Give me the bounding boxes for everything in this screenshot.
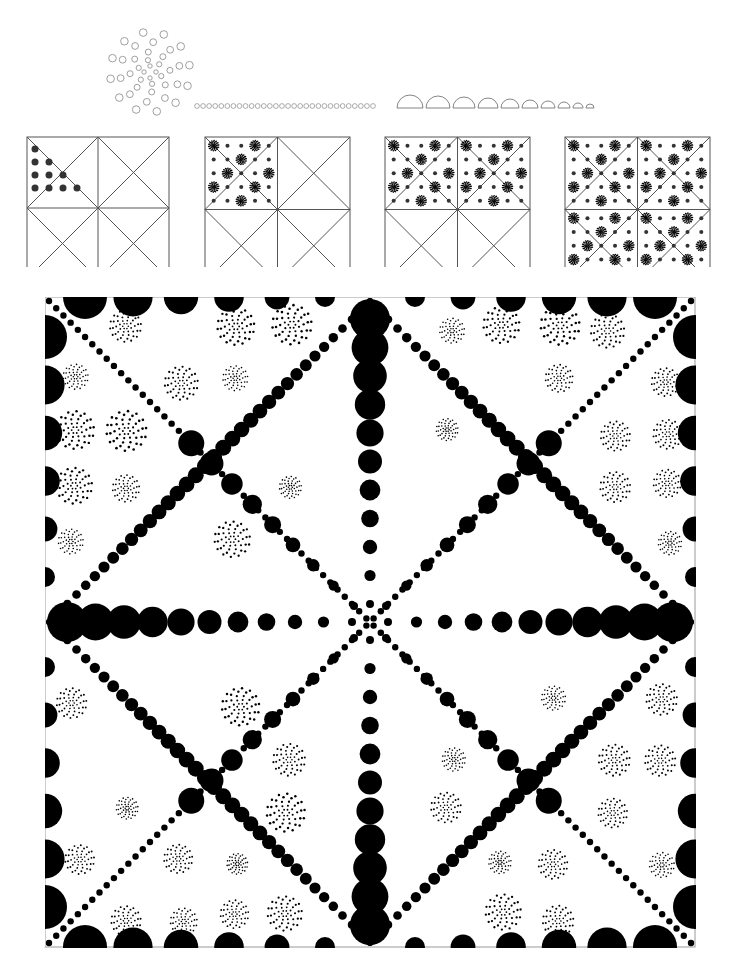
cross-right: [384, 602, 693, 642]
inner-diag-3: [178, 634, 358, 814]
construction-steps: [27, 137, 710, 282]
rosette-icon: [56, 687, 87, 719]
mini-rosette-icon: [515, 167, 527, 179]
rosette-icon: [430, 792, 461, 824]
rosette-icon: [55, 467, 93, 505]
rosette-icon: [644, 745, 676, 777]
rosette-icon: [105, 410, 147, 452]
rosette-icon: [222, 365, 248, 391]
rosette-icon: [598, 798, 628, 829]
rosette-icon: [658, 531, 682, 556]
main-dot-pattern: [0, 267, 741, 971]
rosette-icon: [267, 895, 303, 931]
step-2: [205, 137, 350, 282]
mini-rosette-icon: [582, 167, 594, 179]
rosette-icon: [279, 476, 302, 499]
mini-rosette-icon: [208, 181, 220, 193]
inner-diag-1: [178, 430, 358, 610]
mini-rosette-icon: [568, 181, 580, 193]
rosette-icon: [216, 307, 255, 346]
rosette-icon: [226, 853, 248, 875]
mini-rosette-icon: [402, 167, 414, 179]
rosette-icon: [116, 797, 139, 820]
mini-rosette-icon: [668, 226, 680, 238]
mini-rosette-icon: [695, 240, 707, 252]
rosette-icon: [58, 528, 84, 554]
mini-rosette-icon: [388, 181, 400, 193]
mini-rosette-icon: [609, 140, 621, 152]
rosette-icon: [271, 304, 312, 346]
mini-rosette-icon: [595, 226, 607, 238]
rosette-icon: [214, 520, 251, 558]
rosette-icon: [439, 318, 465, 344]
mini-rosette-icon: [668, 154, 680, 166]
mini-rosette-icon: [474, 167, 486, 179]
mini-rosette-icon: [415, 154, 427, 166]
mini-rosette-icon: [429, 140, 441, 152]
rosette-icon: [163, 844, 193, 874]
mini-rosette-icon: [443, 167, 455, 179]
mini-rosette-icon: [623, 240, 635, 252]
mini-rosette-icon: [415, 195, 427, 207]
mini-rosette-icon: [235, 154, 247, 166]
mini-rosette-icon: [595, 154, 607, 166]
mini-rosette-icon: [222, 167, 234, 179]
outline-rosette: [107, 29, 193, 115]
rosette-icon: [646, 683, 678, 715]
mini-rosette-icon: [654, 167, 666, 179]
rosette-icon: [64, 844, 94, 875]
mini-rosette-icon: [488, 195, 500, 207]
rosette-icon: [598, 744, 631, 777]
step-4: [565, 137, 710, 282]
mini-rosette-icon: [263, 167, 275, 179]
mini-rosette-icon: [595, 195, 607, 207]
mini-rosette-icon: [502, 140, 514, 152]
mini-rosette-icon: [682, 212, 694, 224]
mini-rosette-icon: [654, 240, 666, 252]
step-3: [385, 137, 530, 282]
rosette-icon: [220, 899, 249, 929]
rosette-icon: [485, 893, 522, 930]
rosette-icon: [164, 366, 199, 401]
cross-left: [47, 602, 356, 642]
pattern-canvas: [0, 0, 741, 971]
rosette-icon: [272, 743, 306, 777]
rosette-icon: [62, 364, 88, 390]
mini-rosette-icon: [249, 140, 261, 152]
rosette-icon: [653, 469, 682, 498]
rosette-icon: [545, 364, 574, 393]
mini-rosette-icon: [568, 254, 580, 266]
rosette-icon: [649, 852, 675, 878]
rosette-icon: [599, 471, 631, 503]
rosette-icon: [436, 418, 459, 441]
rosette-icon: [442, 747, 466, 771]
legend-elements: [107, 29, 594, 115]
inner-diag-4: [382, 634, 562, 814]
step-1: [27, 137, 169, 279]
rosette-icon: [266, 793, 306, 833]
mini-rosette-icon: [668, 195, 680, 207]
rosette-icon: [538, 849, 568, 880]
mini-rosette-icon: [623, 167, 635, 179]
mini-rosette-icon: [640, 254, 652, 266]
rosette-icon: [541, 686, 566, 711]
mini-rosette-icon: [488, 154, 500, 166]
mini-rosette-icon: [695, 167, 707, 179]
rosette-icon: [488, 851, 512, 875]
mini-rosette-icon: [582, 240, 594, 252]
mini-rosette-icon: [609, 212, 621, 224]
rosette-icon: [221, 687, 260, 727]
rosette-icon: [590, 313, 625, 348]
mini-rosette-icon: [235, 195, 247, 207]
mini-rosette-icon: [460, 181, 472, 193]
mini-rosette-icon: [640, 181, 652, 193]
rosette-icon: [112, 474, 140, 502]
inner-diag-2: [382, 430, 562, 610]
half-circles-row: [397, 95, 594, 108]
small-circles-row: [195, 104, 376, 109]
cross-top: [350, 299, 390, 608]
rosette-icon: [600, 421, 631, 452]
cross-bottom: [350, 636, 390, 945]
mini-rosette-icon: [682, 140, 694, 152]
rosette-icon: [482, 306, 520, 344]
